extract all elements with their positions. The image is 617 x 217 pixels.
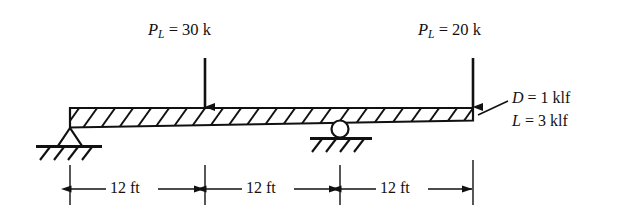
beam-diagram-canvas <box>0 0 617 217</box>
load-symbol-p2: P <box>418 20 428 39</box>
load-equation-2: = 20 k <box>435 20 481 39</box>
roller-support <box>310 121 372 153</box>
live-load-value: = 3 klf <box>521 112 568 129</box>
dead-load-value: = 1 klf <box>524 89 571 106</box>
roller-circle <box>332 121 349 138</box>
dead-load-label: D = 1 klf <box>512 90 570 106</box>
udl-leader-line <box>478 101 508 115</box>
beam-diagram: PL = 30 k PL = 20 k D = 1 klf L = 3 klf … <box>0 0 617 217</box>
live-load-symbol: L <box>512 112 521 129</box>
dimension-label-2: 12 ft <box>246 180 276 196</box>
load-equation-1: = 30 k <box>165 20 211 39</box>
dead-load-symbol: D <box>512 89 524 106</box>
load-symbol-p1: P <box>148 20 158 39</box>
dimension-label-1: 12 ft <box>110 180 140 196</box>
point-load-label-1: PL = 30 k <box>148 22 211 41</box>
live-load-label: L = 3 klf <box>512 113 568 129</box>
point-load-label-2: PL = 20 k <box>418 22 481 41</box>
beam <box>62 104 476 132</box>
pinned-support <box>36 128 102 160</box>
dimension-label-3: 12 ft <box>380 180 410 196</box>
